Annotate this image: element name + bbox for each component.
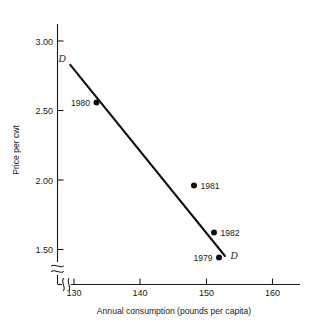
y-tick-label-3.00: 3.00 <box>35 37 53 47</box>
data-point-label-1982: 1982 <box>221 228 240 238</box>
data-point-1982: 1982 <box>211 228 240 238</box>
data-point-marker <box>191 183 197 189</box>
data-point-1980: 1980 <box>71 98 100 108</box>
data-points-group: 1980 1981 1982 1979 <box>71 98 240 263</box>
x-tick-label-130: 130 <box>66 288 81 298</box>
x-tick-label-160: 160 <box>265 288 280 298</box>
data-point-label-1980: 1980 <box>71 98 90 108</box>
y-tick-label-2.50: 2.50 <box>35 106 53 116</box>
data-point-1981: 1981 <box>191 181 220 191</box>
chart-plot-area: 3.00 2.50 2.00 1.50 Price per cwt <box>0 0 324 327</box>
demand-line-DD <box>70 65 225 256</box>
data-point-1979: 1979 <box>193 253 222 263</box>
demand-curve-chart: 3.00 2.50 2.00 1.50 Price per cwt <box>0 0 324 327</box>
data-point-marker <box>211 230 217 236</box>
x-axis-title: Annual consumption (pounds per capita) <box>97 306 251 316</box>
x-axis-group: 130 140 150 160 Annual consumption (poun… <box>58 279 301 317</box>
x-tick-label-150: 150 <box>199 288 214 298</box>
data-point-marker <box>94 100 100 106</box>
y-axis-group: 3.00 2.50 2.00 1.50 Price per cwt <box>11 24 64 284</box>
data-point-label-1981: 1981 <box>201 181 220 191</box>
data-point-marker <box>216 255 222 261</box>
y-axis-break-icon <box>52 265 64 272</box>
data-point-label-1979: 1979 <box>193 253 212 263</box>
x-tick-label-140: 140 <box>132 288 147 298</box>
demand-curve-series: D D <box>57 53 238 261</box>
demand-curve-label-bottom: D <box>229 250 238 261</box>
y-axis-title: Price per cwt <box>11 125 21 175</box>
y-tick-label-2.00: 2.00 <box>35 176 53 186</box>
y-tick-label-1.50: 1.50 <box>35 245 53 255</box>
demand-curve-label-top: D <box>57 53 66 64</box>
